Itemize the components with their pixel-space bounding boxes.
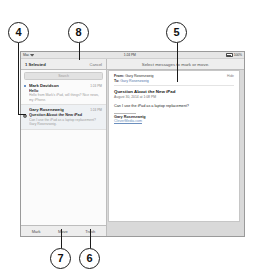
figure-container: 4 8 5 7 6 Mac 1:24 PM 100%: [0, 0, 262, 276]
battery-fill: [227, 55, 232, 57]
detail-pane-instruction: Select messages to mark or move.: [142, 62, 210, 67]
message-time: 1:24 PM: [90, 108, 102, 112]
cancel-button[interactable]: Cancel: [90, 62, 102, 67]
message-detail-pane: From: Gary Rosenzweig Hide To: Gary Rose…: [108, 70, 240, 222]
callout-5: 5: [166, 22, 187, 43]
callout-4: 4: [8, 22, 29, 43]
message-preview: Can I use the iPad as a laptop replaceme…: [29, 118, 102, 127]
detail-to-value[interactable]: Gary Rosenzweig: [120, 79, 148, 83]
move-button[interactable]: Move: [58, 229, 68, 234]
callout-8-leader: [79, 43, 80, 60]
list-item-header: Mark Davidson 1:24 PM: [29, 83, 102, 88]
detail-from-label: From:: [114, 74, 124, 78]
callout-4-leader-horizontal: [18, 114, 26, 115]
callout-8: 8: [68, 22, 89, 43]
callout-6: 6: [79, 248, 100, 269]
callout-6-leader: [90, 229, 91, 248]
callout-5-leader: [177, 43, 178, 82]
selection-count-title: 1 Selected: [25, 62, 46, 67]
signature-divider: [114, 113, 136, 114]
detail-to-label: To:: [114, 79, 119, 83]
navigation-bar-left: 1 Selected Cancel: [21, 59, 107, 70]
list-item[interactable]: Mark Davidson 1:24 PM Hello Hello from M…: [21, 81, 106, 105]
status-bar-left: Mac: [23, 52, 34, 59]
message-list-pane[interactable]: Search Mark Davidson 1:24 PM Hello Hello…: [21, 70, 107, 225]
message-subject: Question About the New iPad: [29, 113, 102, 117]
status-bar-clock: 1:24 PM: [124, 52, 136, 59]
detail-from-text: From: Gary Rosenzweig: [114, 74, 154, 78]
detail-from-row: From: Gary Rosenzweig Hide: [114, 74, 234, 78]
unread-dot-icon: [24, 85, 26, 87]
mark-button[interactable]: Mark: [32, 229, 41, 234]
callout-7-leader: [61, 229, 62, 248]
hide-details-button[interactable]: Hide: [227, 74, 234, 78]
navigation-bar: 1 Selected Cancel Select messages to mar…: [21, 59, 244, 70]
ipad-screenshot: Mac 1:24 PM 100% 1 Selected Cancel Selec…: [20, 51, 245, 237]
callout-7: 7: [50, 248, 71, 269]
battery-percent-label: 100%: [234, 52, 242, 59]
list-item[interactable]: Gary Rosenzweig 1:24 PM Question About t…: [21, 105, 106, 129]
status-bar-right: 100%: [226, 52, 242, 59]
detail-from-value: Gary Rosenzweig: [125, 74, 153, 78]
search-input[interactable]: Search: [24, 72, 103, 80]
message-sender: Mark Davidson: [29, 83, 59, 88]
navigation-bar-right: Select messages to mark or move.: [107, 59, 244, 70]
toolbar-filler: [107, 225, 244, 236]
search-placeholder: Search: [58, 74, 69, 78]
wifi-icon: [30, 54, 34, 57]
carrier-label: Mac: [23, 52, 29, 59]
callout-4-leader-vertical: [18, 43, 19, 115]
detail-to-text: To: Gary Rosenzweig: [114, 79, 149, 83]
detail-to-row: To: Gary Rosenzweig: [114, 79, 234, 83]
detail-date: August 30, 2014 at 1:08 PM: [114, 95, 234, 99]
list-item-header: Gary Rosenzweig 1:24 PM: [29, 107, 102, 112]
signature-website-link[interactable]: CleverMedia.com: [114, 119, 234, 123]
message-time: 1:24 PM: [90, 84, 102, 88]
message-subject: Hello: [29, 89, 102, 93]
detail-body-text: Can I use the iPad as a laptop replaceme…: [114, 104, 234, 109]
detail-divider: [114, 85, 234, 86]
message-sender: Gary Rosenzweig: [29, 107, 64, 112]
message-preview: Hello from Mark's iPad, will things? Nic…: [29, 93, 102, 102]
status-bar: Mac 1:24 PM 100%: [21, 52, 244, 59]
detail-subject: Question About the New iPad: [114, 89, 234, 94]
bottom-toolbar: Mark Move Trash: [21, 225, 107, 236]
battery-icon: [226, 53, 233, 56]
